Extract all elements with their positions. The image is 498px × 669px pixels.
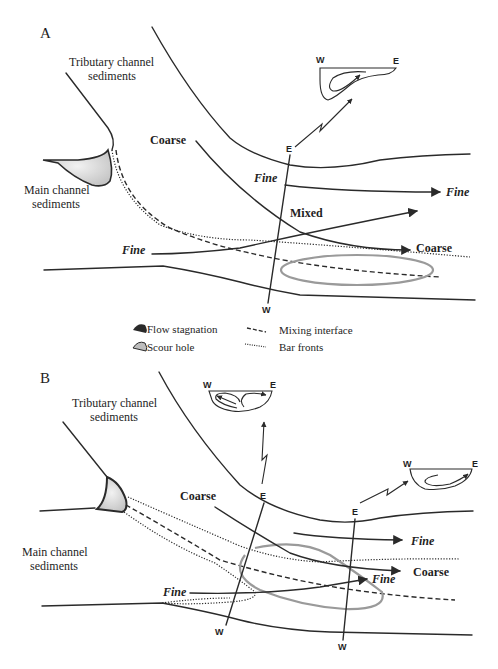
panel-b-transect-2-west-label: W	[338, 642, 347, 652]
panel-b-transect-2-line	[343, 519, 355, 640]
confluence-diagram: A Tributary channel sediments Main chann…	[0, 0, 498, 669]
panel-a-fine-in-bottom-label: Fine	[121, 243, 146, 257]
panel-a-fine-out-label: Fine	[445, 185, 470, 199]
panel-b-scour-hole	[240, 544, 383, 609]
panel-b-tributary-left-bank	[63, 422, 107, 477]
panel-b-cross-section-2-inset: W E	[403, 459, 478, 490]
panel-a-transect-east-label: E	[286, 144, 292, 154]
panel-a-cross-section-inset: W E	[316, 55, 399, 100]
panel-a-flow-stagnation-zone	[43, 150, 112, 186]
panel-b-xs1-right-cell	[241, 393, 266, 407]
panel-b-fine-in-bottom-label: Fine	[162, 585, 187, 599]
panel-b-flow-stagnation-zone	[97, 477, 127, 512]
panel-b-xs2-circulation-cell	[425, 474, 468, 486]
panel-b-tributary-label-line2: sediments	[90, 410, 138, 424]
legend-mixing-interface-icon	[247, 328, 266, 332]
panel-b-transect-1-west-label: W	[215, 627, 224, 637]
panel-a-zigzag-arrow	[295, 99, 352, 147]
panel-a-xs-west-label: W	[316, 55, 325, 65]
panel-b-transect-1-east-label: E	[260, 491, 266, 501]
panel-a-main-label-line2: sediments	[32, 197, 80, 211]
panel-a-tributary-label-line2: sediments	[88, 69, 136, 83]
panel-b-fine-out-top-label: Fine	[410, 534, 435, 548]
panel-a-letter: A	[40, 25, 51, 41]
panel-a-fine-bottom-flowline	[152, 211, 417, 254]
panel-a-xs-channel-profile	[320, 68, 396, 100]
panel-b-bar-front-lower	[124, 512, 255, 604]
panel-a-coarse-out-label: Coarse	[416, 241, 453, 255]
panel-b-xs2-east-label: E	[472, 459, 478, 469]
legend-flow-stagnation-label: Flow stagnation	[147, 323, 218, 335]
legend-scour-hole-label: Scour hole	[147, 341, 194, 353]
panel-b-main-label-line1: Main channel	[22, 545, 88, 559]
panel-b-coarse-out-label: Coarse	[413, 565, 450, 579]
panel-b-bar-front-upper	[128, 497, 460, 562]
legend-bar-fronts-label: Bar fronts	[279, 341, 323, 353]
panel-b-tributary-label-line1: Tributary channel	[72, 396, 158, 410]
panel-b-xs2-west-label: W	[403, 459, 412, 469]
panel-a-transect-west-label: W	[262, 305, 271, 315]
panel-b-fine-top-flowline	[294, 533, 402, 540]
legend-mixing-interface-label: Mixing interface	[279, 324, 353, 336]
panel-a-mixed-label: Mixed	[290, 206, 323, 220]
panel-b-main-lower-bank	[42, 603, 472, 635]
panel-b-xs1-left-arrow	[217, 396, 236, 404]
panel-a-mixing-interface	[116, 150, 440, 277]
panel-a: A Tributary channel sediments Main chann…	[24, 25, 475, 315]
panel-b-xs1-west-label: W	[203, 380, 212, 390]
panel-b: B Tributary channel sediments Main chann…	[22, 370, 478, 652]
panel-a-xs-circulation-cell	[330, 72, 367, 91]
panel-a-tributary-left-bank	[66, 73, 113, 150]
legend: Flow stagnation Scour hole Mixing interf…	[133, 323, 353, 353]
legend-bar-fronts-icon	[245, 344, 266, 347]
panel-a-coarse-in-label: Coarse	[150, 133, 187, 147]
panel-b-coarse-in-label: Coarse	[180, 489, 217, 503]
panel-a-main-lower-bank	[44, 266, 475, 300]
panel-b-xs1-east-label: E	[270, 380, 276, 390]
panel-b-zigzag-arrow-2	[360, 481, 408, 503]
panel-a-main-label-line1: Main channel	[24, 183, 90, 197]
panel-b-fine-bottom-flowline	[190, 579, 367, 593]
legend-flow-stagnation-icon	[133, 324, 147, 333]
panel-b-main-upper-left-bank	[40, 508, 95, 511]
panel-a-fine-in-top-label: Fine	[253, 171, 278, 185]
panel-b-transect-2-east-label: E	[352, 507, 358, 517]
panel-b-letter: B	[40, 370, 50, 386]
panel-a-fine-top-flowline	[285, 185, 440, 192]
panel-a-xs-east-label: E	[393, 56, 399, 66]
panel-b-zigzag-arrow-1	[262, 422, 267, 484]
legend-scour-hole-icon	[133, 342, 147, 351]
panel-b-main-label-line2: sediments	[30, 559, 78, 573]
panel-b-fine-out-mid-label: Fine	[371, 572, 396, 586]
panel-a-tributary-label-line1: Tributary channel	[69, 55, 155, 69]
panel-b-xs2-channel-profile	[410, 469, 472, 490]
panel-b-cross-section-1-inset: W E	[203, 380, 276, 412]
